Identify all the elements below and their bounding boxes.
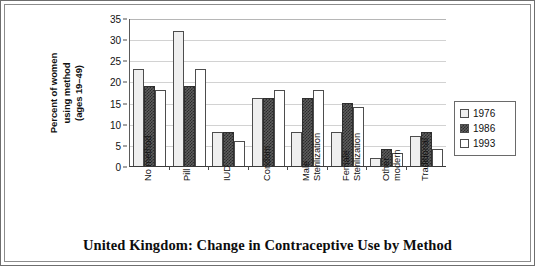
- x-axis-category: Condom: [248, 181, 288, 239]
- x-axis-tick-mark: [169, 166, 170, 170]
- dark-hatched-swatch: [460, 124, 469, 133]
- y-axis-tick-mark: [123, 82, 127, 83]
- figure-frame: Percent of women using method (ages 19–4…: [0, 0, 535, 266]
- y-axis-tick-label: 20: [110, 77, 121, 88]
- legend-item-label: 1976: [473, 109, 495, 119]
- y-axis-tick-label: 15: [110, 98, 121, 109]
- x-axis-category-label: Other modern: [381, 123, 402, 181]
- y-axis-tick-labels: 05101520253035: [101, 19, 125, 167]
- x-axis-tick-mark: [208, 166, 209, 170]
- y-axis-tick-mark: [123, 145, 127, 146]
- y-axis-tick-label: 25: [110, 56, 121, 67]
- x-axis-category-label: Female Sterilization: [341, 123, 362, 181]
- legend-item[interactable]: 1976: [460, 106, 511, 121]
- x-axis-tick-mark: [327, 166, 328, 170]
- x-axis-category: Other modern: [367, 181, 407, 239]
- y-axis-tick-mark: [123, 19, 127, 20]
- x-axis-category-labels: No methodPillIUDCondomMale Sterilization…: [129, 181, 446, 239]
- bar: [274, 90, 285, 166]
- x-axis-category-label: Condom: [262, 123, 273, 181]
- legend-item-label: 1986: [473, 124, 495, 134]
- legend-item[interactable]: 1986: [460, 121, 511, 136]
- chart-caption: United Kingdom: Change in Contraceptive …: [5, 237, 530, 254]
- x-axis-category: Traditional: [406, 181, 446, 239]
- y-axis-tick-mark: [123, 103, 127, 104]
- x-axis-tick-mark: [287, 166, 288, 170]
- y-axis-tick-label: 35: [110, 14, 121, 25]
- x-axis-category: IUD: [208, 181, 248, 239]
- y-axis-tick-label: 5: [115, 140, 121, 151]
- bar: [370, 158, 381, 166]
- y-axis-tick-mark: [123, 167, 127, 168]
- bar: [155, 90, 166, 166]
- y-axis-title: Percent of women using method (ages 19–4…: [41, 15, 93, 171]
- x-axis-tick-mark: [366, 166, 367, 170]
- x-axis-category: Pill: [169, 181, 209, 239]
- y-axis-tick-label: 10: [110, 119, 121, 130]
- light-dotted-swatch: [460, 109, 469, 118]
- x-axis-category-label: IUD: [222, 123, 233, 181]
- y-axis-tick-mark: [123, 124, 127, 125]
- x-axis-category-label: No method: [143, 123, 154, 181]
- y-axis-tick-label: 30: [110, 35, 121, 46]
- x-axis-category: Male Sterilization: [288, 181, 328, 239]
- legend: 197619861993: [454, 101, 516, 156]
- bar: [432, 149, 443, 166]
- legend-item-label: 1993: [473, 139, 495, 149]
- x-axis-tick-mark: [248, 166, 249, 170]
- x-axis-category-label: Traditional: [420, 123, 431, 181]
- x-axis-category: No method: [129, 181, 169, 239]
- y-axis-tick-mark: [123, 40, 127, 41]
- bar: [234, 141, 245, 166]
- y-axis-tick-label: 0: [115, 162, 121, 173]
- x-axis-category: Female Sterilization: [327, 181, 367, 239]
- legend-item[interactable]: 1993: [460, 136, 511, 151]
- x-axis-tick-mark: [406, 166, 407, 170]
- x-axis-category-label: Pill: [182, 123, 193, 181]
- figure-inner-frame: Percent of women using method (ages 19–4…: [4, 4, 531, 262]
- x-axis-category-label: Male Sterilization: [301, 123, 322, 181]
- white-swatch: [460, 139, 469, 148]
- y-axis-tick-mark: [123, 61, 127, 62]
- bar: [195, 69, 206, 166]
